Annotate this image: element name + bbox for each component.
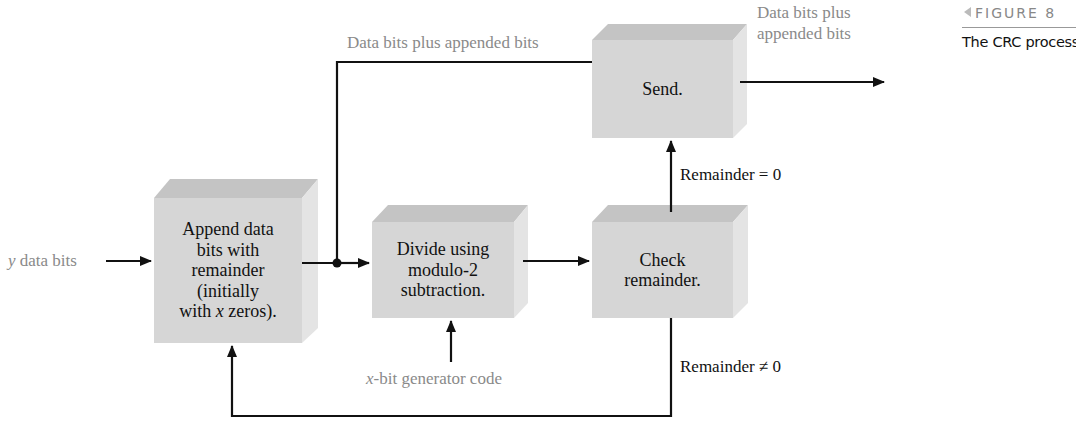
triangle-left-icon — [964, 7, 971, 17]
figure-number: FIGURE 8 — [962, 5, 1076, 28]
remainder-zero-label: Remainder = 0 — [680, 165, 781, 184]
junction-dot — [333, 259, 342, 268]
divide-line-3: subtraction. — [397, 280, 490, 301]
figure-caption: FIGURE 8 The CRC process. — [962, 0, 1076, 50]
output-label-line-1: Data bits plus — [757, 2, 851, 23]
output-label-line-2: appended bits — [757, 23, 851, 44]
check-line-2: remainder. — [624, 270, 700, 291]
divide-line-1: Divide using — [397, 239, 490, 260]
top-path-label: Data bits plus appended bits — [347, 33, 539, 52]
append-line-4: (initially — [179, 281, 277, 302]
check-line-1: Check — [624, 250, 700, 271]
figure-title: The CRC process. — [962, 34, 1076, 50]
input-text: data bits — [16, 251, 77, 270]
output-label: Data bits plus appended bits — [757, 2, 851, 44]
append-line-5: with x zeros). — [179, 301, 277, 322]
figure-number-text: FIGURE 8 — [975, 5, 1056, 21]
input-label: y data bits — [8, 251, 77, 270]
remainder-nonzero-label: Remainder ≠ 0 — [680, 357, 781, 376]
generator-text: -bit generator code — [374, 369, 502, 388]
append-line-3: remainder — [179, 260, 277, 281]
input-var: y — [8, 251, 16, 270]
generator-var: x — [366, 369, 374, 388]
append-line-1: Append data — [179, 219, 277, 240]
append-line-2: bits with — [179, 240, 277, 261]
generator-label: x-bit generator code — [366, 369, 502, 388]
divide-line-2: modulo-2 — [397, 260, 490, 281]
send-label: Send. — [642, 79, 683, 100]
